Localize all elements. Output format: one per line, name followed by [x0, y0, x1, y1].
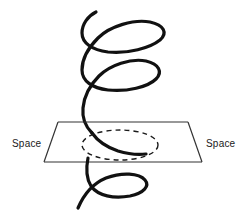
figure-canvas: Space Space [0, 0, 247, 222]
space-plane [44, 122, 202, 162]
spiral-helix-lower [78, 158, 147, 208]
helix-plane-diagram [0, 0, 247, 222]
helix-path-lower [78, 158, 147, 208]
space-label-right: Space [206, 139, 235, 149]
spiral-helix-upper [82, 12, 164, 133]
plane-surface [44, 122, 202, 162]
helix-path-upper [82, 12, 164, 133]
space-label-left: Space [12, 139, 41, 149]
